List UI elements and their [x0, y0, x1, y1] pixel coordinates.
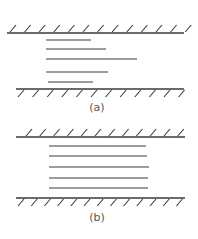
bottom-wall-hatch	[76, 90, 82, 97]
top-wall-hatch	[171, 25, 177, 32]
bottom-wall-hatch	[135, 90, 141, 97]
bottom-wall-hatch	[58, 199, 64, 206]
top-wall-hatch	[127, 25, 133, 32]
bottom-wall-hatch	[97, 199, 103, 206]
top-wall-hatch	[141, 25, 147, 32]
bottom-wall-hatch	[106, 90, 112, 97]
bottom-wall-hatch	[91, 90, 97, 97]
bottom-wall-hatch	[33, 90, 39, 97]
top-wall-hatch	[112, 25, 118, 32]
bottom-wall-hatch	[31, 199, 37, 206]
bottom-wall-hatch	[164, 90, 170, 97]
panel-b	[16, 129, 185, 206]
top-wall-hatch	[136, 129, 142, 136]
bottom-wall-hatch	[44, 199, 50, 206]
panel-a	[7, 25, 191, 97]
bottom-wall-hatch	[110, 199, 116, 206]
bottom-wall-hatch	[18, 199, 24, 206]
top-wall-hatch	[54, 25, 60, 32]
bottom-wall-hatch	[62, 90, 68, 97]
bottom-wall-hatch	[124, 199, 130, 206]
bottom-wall-hatch	[150, 199, 156, 206]
top-wall-hatch	[185, 25, 191, 32]
bottom-wall-hatch	[47, 90, 53, 97]
top-wall-hatch	[68, 25, 74, 32]
top-wall-hatch	[150, 129, 156, 136]
bottom-wall-hatch	[84, 199, 90, 206]
top-wall-hatch	[25, 25, 31, 32]
top-wall-hatch	[83, 25, 89, 32]
top-wall-hatch	[156, 25, 162, 32]
bottom-wall-hatch	[120, 90, 126, 97]
top-wall-hatch	[26, 129, 32, 136]
top-wall-hatch	[95, 129, 101, 136]
panel-b-label: (b)	[89, 211, 105, 224]
flow-between-walls-diagram: (a) (b)	[0, 0, 198, 239]
top-wall-hatch	[81, 129, 87, 136]
bottom-wall-hatch	[18, 90, 24, 97]
panel-a-label: (a)	[89, 101, 104, 114]
top-wall-hatch	[40, 129, 46, 136]
top-wall-hatch	[39, 25, 45, 32]
bottom-wall-hatch	[149, 90, 155, 97]
bottom-wall-hatch	[71, 199, 77, 206]
top-wall-hatch	[109, 129, 115, 136]
bottom-wall-hatch	[179, 90, 185, 97]
top-wall-hatch	[10, 25, 16, 32]
top-wall-hatch	[178, 129, 184, 136]
top-wall-hatch	[98, 25, 104, 32]
top-wall-hatch	[67, 129, 73, 136]
bottom-wall-hatch	[137, 199, 143, 206]
bottom-wall-hatch	[163, 199, 169, 206]
top-wall-hatch	[164, 129, 170, 136]
bottom-wall-hatch	[176, 199, 182, 206]
top-wall-hatch	[123, 129, 129, 136]
top-wall-hatch	[54, 129, 60, 136]
